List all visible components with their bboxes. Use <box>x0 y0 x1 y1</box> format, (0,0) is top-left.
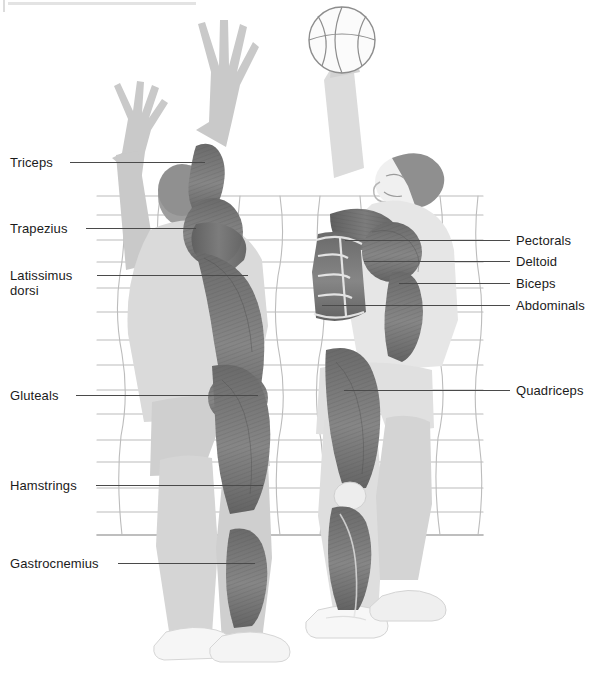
label-gluteals: Gluteals <box>10 388 59 403</box>
label-pectorals: Pectorals <box>516 233 571 248</box>
leader-line-hamstrings <box>96 485 263 486</box>
leader-line-abdominals <box>322 305 510 306</box>
label-triceps: Triceps <box>10 155 53 170</box>
label-gastrocnemius: Gastrocnemius <box>10 556 99 571</box>
label-biceps: Biceps <box>516 276 556 291</box>
label-abdominals: Abdominals <box>516 298 585 313</box>
leader-line-trapezius <box>86 228 196 229</box>
label-trapezius: Trapezius <box>10 221 68 236</box>
label-hamstrings: Hamstrings <box>10 478 77 493</box>
leader-line-triceps <box>70 162 205 163</box>
illustration-stage: Triceps Trapezius Latissimus dorsi Glute… <box>0 0 589 684</box>
label-quadriceps: Quadriceps <box>516 383 583 398</box>
leader-line-biceps <box>399 283 510 284</box>
label-deltoid: Deltoid <box>516 254 557 269</box>
leader-line-gastrocnemius <box>118 563 255 564</box>
label-latissimus-dorsi: Latissimus dorsi <box>10 268 72 298</box>
leader-line-quadriceps <box>344 390 510 391</box>
leader-line-deltoid <box>364 261 510 262</box>
leader-line-latissimus-dorsi <box>97 275 248 276</box>
leader-line-pectorals <box>345 240 510 241</box>
leader-line-gluteals <box>76 395 258 396</box>
basketball-icon <box>309 7 375 73</box>
players-artwork <box>0 0 589 684</box>
